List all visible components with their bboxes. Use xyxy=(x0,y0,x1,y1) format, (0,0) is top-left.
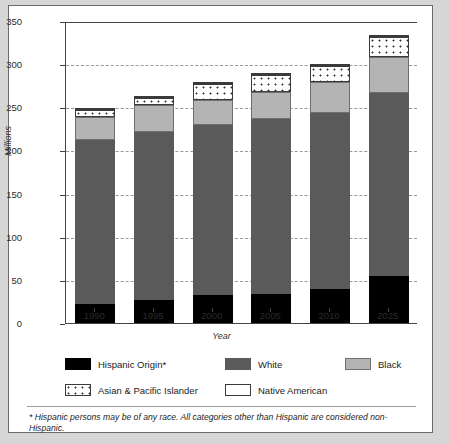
y-tick-mark-100 xyxy=(60,238,65,239)
bar-segment-1990-black xyxy=(75,117,115,140)
bar-segment-2005-native-american xyxy=(251,73,291,75)
bar-2010[interactable] xyxy=(310,21,350,323)
legend-label: Native American xyxy=(258,385,327,396)
legend-label: Hispanic Origin* xyxy=(98,359,166,370)
y-tick-mark-150 xyxy=(60,195,65,196)
y-tick-mark-250 xyxy=(60,108,65,109)
x-tick-mark-1990 xyxy=(94,308,95,312)
bar-segment-1995-white xyxy=(134,132,174,299)
chart-canvas: Millions 050100150200250300350 199019952… xyxy=(9,6,434,434)
x-tick-mark-2025 xyxy=(388,308,389,312)
bar-segment-2025-white xyxy=(369,93,409,276)
x-axis-title: Year xyxy=(9,331,434,341)
y-tick-label-350: 350 xyxy=(0,17,22,27)
bar-segment-2000-native-american xyxy=(193,82,233,84)
x-tick-mark-2010 xyxy=(329,308,330,312)
bar-segment-2025-black xyxy=(369,57,409,92)
legend-swatch-icon xyxy=(225,384,251,396)
y-tick-label-300: 300 xyxy=(0,60,22,70)
y-tick-mark-0 xyxy=(60,324,65,325)
chart-frame: Millions 050100150200250300350 199019952… xyxy=(8,5,433,433)
bar-series-group xyxy=(66,22,417,323)
y-tick-label-100: 100 xyxy=(0,233,22,243)
legend-item-asian-pacific-islander[interactable]: Asian & Pacific Islander xyxy=(65,384,198,396)
y-tick-mark-200 xyxy=(60,151,65,152)
bar-segment-2010-asian-pacific-islander xyxy=(310,66,350,82)
footnote-divider xyxy=(27,406,416,407)
bar-segment-2000-white xyxy=(193,125,233,295)
legend-label: Asian & Pacific Islander xyxy=(98,385,198,396)
plot-area xyxy=(65,22,417,324)
bar-2000[interactable] xyxy=(193,21,233,323)
bar-segment-2005-white xyxy=(251,119,291,294)
legend-swatch-icon xyxy=(225,358,251,370)
bar-segment-1995-black xyxy=(134,105,174,133)
legend-swatch-icon xyxy=(65,358,91,370)
y-tick-label-150: 150 xyxy=(0,190,22,200)
chart-legend: Hispanic Origin*WhiteBlackAsian & Pacifi… xyxy=(65,358,417,406)
y-tick-mark-300 xyxy=(60,65,65,66)
y-tick-label-50: 50 xyxy=(0,276,22,286)
y-tick-mark-350 xyxy=(60,22,65,23)
y-tick-label-0: 0 xyxy=(0,319,22,329)
bar-segment-1990-native-american xyxy=(75,108,115,110)
x-tick-mark-2005 xyxy=(270,308,271,312)
bar-segment-2025-native-american xyxy=(369,35,409,38)
legend-item-white[interactable]: White xyxy=(225,358,282,370)
legend-item-hispanic-origin[interactable]: Hispanic Origin* xyxy=(65,358,166,370)
legend-label: White xyxy=(258,359,282,370)
bar-segment-1990-white xyxy=(75,140,115,304)
bar-2025[interactable] xyxy=(369,21,409,323)
y-tick-label-200: 200 xyxy=(0,146,22,156)
bar-segment-1990-asian-pacific-islander xyxy=(75,110,115,117)
bar-1995[interactable] xyxy=(134,21,174,323)
legend-item-black[interactable]: Black xyxy=(345,358,401,370)
legend-swatch-icon xyxy=(65,384,91,396)
bar-segment-2010-white xyxy=(310,113,350,289)
bar-segment-2005-black xyxy=(251,92,291,119)
bar-2005[interactable] xyxy=(251,21,291,323)
bar-segment-2025-asian-pacific-islander xyxy=(369,37,409,57)
y-tick-label-250: 250 xyxy=(0,103,22,113)
bar-segment-2010-native-american xyxy=(310,64,350,66)
bar-segment-1995-native-american xyxy=(134,96,174,98)
legend-item-native-american[interactable]: Native American xyxy=(225,384,327,396)
bar-segment-1995-asian-pacific-islander xyxy=(134,98,174,105)
bar-segment-2000-black xyxy=(193,100,233,125)
bar-1990[interactable] xyxy=(75,21,115,323)
legend-swatch-icon xyxy=(345,358,371,370)
bar-segment-2005-asian-pacific-islander xyxy=(251,75,291,91)
y-tick-mark-50 xyxy=(60,281,65,282)
bar-segment-2000-asian-pacific-islander xyxy=(193,84,233,100)
x-tick-mark-1995 xyxy=(153,308,154,312)
footnote-text: * Hispanic persons may be of any race. A… xyxy=(29,412,420,433)
bar-segment-2010-black xyxy=(310,82,350,113)
legend-label: Black xyxy=(378,359,401,370)
x-tick-mark-2000 xyxy=(212,308,213,312)
